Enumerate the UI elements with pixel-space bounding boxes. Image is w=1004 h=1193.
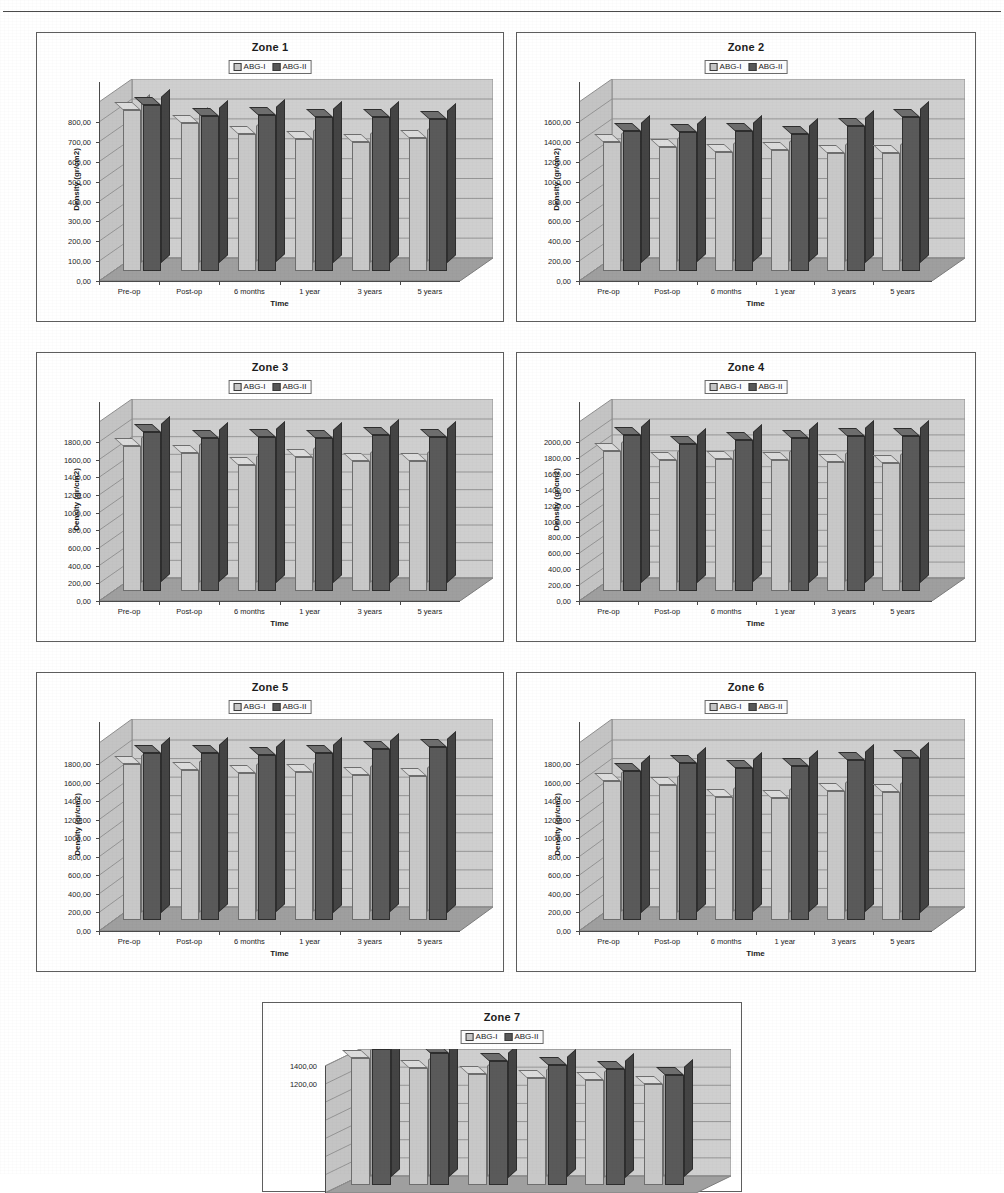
bar-face (882, 792, 900, 921)
bar-zone5-6-months-abg-ii (258, 755, 276, 920)
bar-top (782, 126, 809, 134)
y-tick-mark (96, 261, 99, 262)
chart-legend: ABG-IABG-II (461, 1030, 544, 1044)
bar-side (219, 422, 228, 582)
x-tick-mark (400, 601, 401, 605)
legend-label-abg-i: ABG-I (244, 62, 266, 71)
bar-zone2-pre-op-abg-i (603, 142, 621, 270)
y-tick-label: 300,00 (39, 217, 91, 226)
y-tick-label: 800,00 (39, 118, 91, 127)
bar-face (735, 131, 753, 270)
y-axis-title: Density (gr/cm2) (73, 748, 82, 901)
bar-face (372, 117, 390, 271)
bar-top (635, 1076, 663, 1084)
bar-face (791, 766, 809, 920)
bar-side (697, 428, 706, 583)
y-tick-mark (576, 458, 579, 459)
bar-side (219, 100, 228, 263)
y-tick-mark (96, 495, 99, 496)
x-tick-label: Pre-op (95, 607, 163, 616)
bar-side (809, 422, 818, 583)
x-tick-label: 5 years (869, 287, 937, 296)
bar-side (219, 737, 228, 912)
bar-side (809, 118, 818, 262)
bar-top (838, 118, 865, 126)
x-tick-label: 3 years (810, 287, 878, 296)
bar-top (249, 429, 276, 437)
y-tick-mark (576, 490, 579, 491)
bar-top (650, 777, 677, 785)
y-tick-label: 800,00 (39, 526, 91, 535)
y-tick-mark (96, 566, 99, 567)
bar-side (697, 116, 706, 262)
y-tick-label: 1000,00 (519, 517, 571, 526)
chart-bars (99, 79, 493, 281)
y-tick-mark (576, 522, 579, 523)
bar-zone1-post-op-abg-i (181, 123, 199, 271)
bar-face (623, 771, 641, 921)
y-tick-mark (576, 801, 579, 802)
y-axis-title: Density (gr/cm2) (553, 427, 562, 572)
bar-face (527, 1078, 546, 1185)
bar-zone2-5-years-abg-i (882, 153, 900, 270)
y-tick-mark (576, 122, 579, 123)
x-tick-label: Post-op (633, 937, 701, 946)
bar-top (597, 1061, 625, 1069)
legend-swatch-abg-ii (272, 703, 280, 711)
x-tick-mark (159, 281, 160, 285)
y-tick-label: 1800,00 (39, 438, 91, 447)
bar-top (343, 134, 370, 142)
bar-side (809, 750, 818, 912)
y-tick-label: 1200,00 (519, 815, 571, 824)
y-tick-label: 0,00 (519, 597, 571, 606)
y-tick-mark (96, 202, 99, 203)
x-tick-label: 3 years (336, 607, 404, 616)
chart-bars (325, 1049, 731, 1193)
bar-top (306, 745, 333, 753)
bar-top (762, 452, 789, 460)
x-tick-label: 5 years (396, 937, 464, 946)
bar-face (143, 753, 161, 921)
legend-item-abg-ii: ABG-II (748, 382, 782, 391)
bar-top (286, 449, 313, 457)
running-head-rule (3, 11, 1001, 12)
chart-plot-area (579, 399, 965, 601)
x-tick-mark (400, 931, 401, 935)
bar-top (614, 763, 641, 771)
bar-zone1-post-op-abg-ii (201, 116, 219, 271)
x-tick-label: 5 years (396, 287, 464, 296)
x-tick-mark (638, 281, 639, 285)
bar-side (920, 742, 929, 913)
chart-plot-area (579, 79, 965, 281)
y-tick-mark (96, 142, 99, 143)
bar-side (447, 731, 456, 913)
y-tick-mark (96, 820, 99, 821)
x-tick-label: 6 months (692, 287, 760, 296)
y-tick-label: 200,00 (39, 908, 91, 917)
bar-face (603, 142, 621, 270)
bar-zone3-5-years-abg-ii (429, 437, 447, 591)
x-tick-label: Pre-op (574, 607, 642, 616)
y-axis-line (325, 1066, 326, 1193)
bar-face (238, 134, 256, 270)
bar-face (372, 749, 390, 920)
legend-item-abg-ii: ABG-II (272, 382, 306, 391)
legend-item-abg-i: ABG-I (234, 62, 266, 71)
bar-zone3-1-year-abg-ii (315, 438, 333, 591)
bar-face (735, 768, 753, 920)
x-tick-label: 3 years (810, 607, 878, 616)
bar-side (567, 1049, 576, 1177)
bar-zone5-post-op-abg-i (181, 770, 199, 921)
bar-zone1-1-year-abg-ii (315, 117, 333, 271)
x-tick-label: 1 year (751, 287, 819, 296)
y-tick-label: 200,00 (519, 581, 571, 590)
bar-top (363, 741, 390, 749)
bar-face (351, 1058, 370, 1185)
y-tick-mark (576, 875, 579, 876)
y-tick-label: 600,00 (39, 544, 91, 553)
y-tick-label: 100,00 (39, 257, 91, 266)
bar-zone5-3-years-abg-ii (372, 749, 390, 920)
bar-top (818, 145, 845, 153)
bar-side (391, 1049, 400, 1177)
y-tick-label: 1000,00 (39, 508, 91, 517)
